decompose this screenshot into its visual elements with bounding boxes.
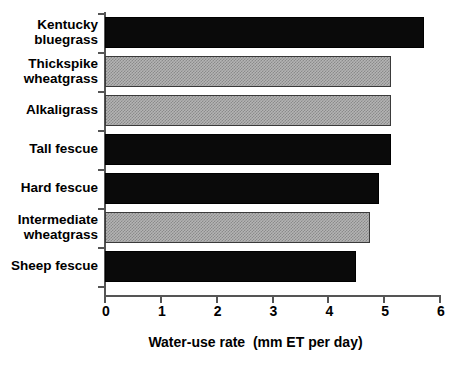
x-axis-tick-label: 3	[259, 303, 289, 319]
x-axis-tick-label: 5	[370, 303, 400, 319]
bar-row	[105, 173, 379, 204]
y-axis-tick	[98, 130, 105, 132]
y-axis-tick	[98, 52, 105, 54]
y-axis-tick	[98, 13, 105, 15]
y-axis-tick	[98, 286, 105, 288]
category-label-line: Thickspike	[0, 56, 98, 71]
y-axis-tick	[98, 247, 105, 249]
bar-kentucky-bluegrass	[105, 17, 424, 48]
category-label-alkaligrass: Alkaligrass	[0, 102, 98, 117]
x-axis-tick-label: 4	[314, 303, 344, 319]
category-label-line: bluegrass	[0, 32, 98, 47]
category-label-thickspike-wheatgrass: Thickspikewheatgrass	[0, 56, 98, 86]
bar-thickspike-wheatgrass	[105, 56, 391, 87]
x-axis-tick-label: 1	[147, 303, 177, 319]
bar-sheep fescue	[105, 251, 356, 282]
x-axis-tick-label: 2	[203, 303, 233, 319]
water-use-rate-bar-chart: 0123456 KentuckybluegrassThickspikewheat…	[0, 0, 459, 365]
category-label-line: Tall fescue	[0, 141, 98, 156]
bar-hard fescue	[105, 173, 379, 204]
category-label-tall fescue: Tall fescue	[0, 141, 98, 156]
category-label-intermediate-wheatgrass: Intermediatewheatgrass	[0, 212, 98, 242]
x-axis-title: Water-use rate (mm ET per day)	[0, 334, 459, 350]
category-label-line: Kentucky	[0, 17, 98, 32]
bar-row	[105, 134, 391, 165]
category-label-line: wheatgrass	[0, 71, 98, 86]
x-axis-tick-label: 6	[426, 303, 456, 319]
y-axis-tick	[98, 91, 105, 93]
bar-row	[105, 212, 370, 243]
category-label-kentucky-bluegrass: Kentuckybluegrass	[0, 17, 98, 47]
category-label-line: wheatgrass	[0, 227, 98, 242]
bar-row	[105, 56, 391, 87]
y-axis-tick	[98, 169, 105, 171]
bar-intermediate-wheatgrass	[105, 212, 370, 243]
bar-row	[105, 17, 424, 48]
bar-row	[105, 251, 356, 282]
category-label-sheep fescue: Sheep fescue	[0, 258, 98, 273]
x-axis-tick-label: 0	[91, 303, 121, 319]
category-label-line: Hard fescue	[0, 180, 98, 195]
category-label-line: Sheep fescue	[0, 258, 98, 273]
category-label-line: Alkaligrass	[0, 102, 98, 117]
bar-row	[105, 95, 391, 126]
category-label-line: Intermediate	[0, 212, 98, 227]
bar-alkaligrass	[105, 95, 391, 126]
y-axis-tick	[98, 208, 105, 210]
bar-tall fescue	[105, 134, 391, 165]
category-label-hard fescue: Hard fescue	[0, 180, 98, 195]
